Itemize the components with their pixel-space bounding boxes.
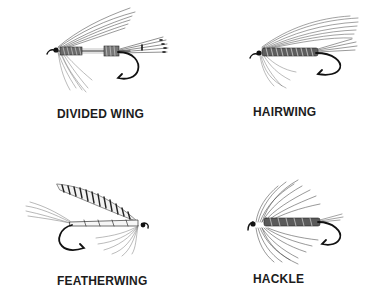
wing-icon xyxy=(58,8,135,48)
tail-icon xyxy=(320,214,343,222)
hook-icon xyxy=(316,53,340,75)
wing-icon xyxy=(262,16,358,48)
hook-icon xyxy=(318,222,340,245)
divided-wing-label: DIVIDED WING xyxy=(57,108,144,120)
featherwing-fly-illustration xyxy=(26,184,148,256)
divided-wing-fly-illustration xyxy=(47,8,168,92)
hackle-fly-illustration xyxy=(248,180,343,264)
hairwing-label: HAIRWING xyxy=(253,106,316,118)
hook-eye-icon xyxy=(250,54,257,58)
hook-icon xyxy=(118,52,138,79)
tail-icon xyxy=(318,39,357,52)
fly-illustrations xyxy=(0,0,366,297)
hackle-fibers-icon xyxy=(96,226,138,256)
hackle-fibers-icon xyxy=(260,56,296,88)
hackle-label: HACKLE xyxy=(253,273,304,285)
hairwing-fly-illustration xyxy=(250,16,358,88)
wing-icon xyxy=(57,184,138,222)
hook-eye-icon xyxy=(47,50,54,54)
hook-icon xyxy=(59,225,84,250)
hackle-fibers-icon xyxy=(58,52,92,92)
featherwing-label: FEATHERWING xyxy=(57,275,147,287)
tail-icon xyxy=(26,202,70,223)
